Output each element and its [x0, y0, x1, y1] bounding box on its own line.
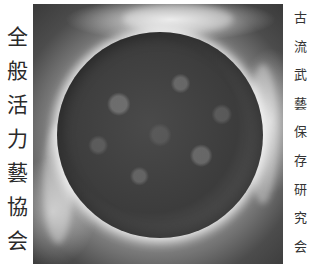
right-title-char: 藝 [294, 90, 307, 119]
left-title-char: 全 [7, 20, 28, 54]
left-title-char: 藝 [7, 156, 28, 190]
left-title-char: 般 [7, 54, 28, 88]
left-title-char: 力 [7, 122, 28, 156]
left-title-char: 協 [7, 190, 28, 224]
dark-sphere [57, 32, 263, 238]
right-title-char: 古 [294, 4, 307, 33]
right-title-char: 会 [294, 233, 307, 262]
right-title-char: 存 [294, 147, 307, 176]
right-title-char: 武 [294, 61, 307, 90]
sphere-artwork [33, 4, 283, 264]
left-title-char: 会 [7, 224, 28, 258]
right-title-char: 究 [294, 204, 307, 233]
left-title-char: 活 [7, 88, 28, 122]
glow-streak [123, 4, 233, 34]
left-vertical-title: 全 般 活 力 藝 協 会 [4, 20, 30, 258]
right-title-char: 流 [294, 33, 307, 62]
right-title-char: 保 [294, 118, 307, 147]
right-vertical-title: 古 流 武 藝 保 存 研 究 会 [287, 4, 313, 261]
right-title-char: 研 [294, 176, 307, 205]
